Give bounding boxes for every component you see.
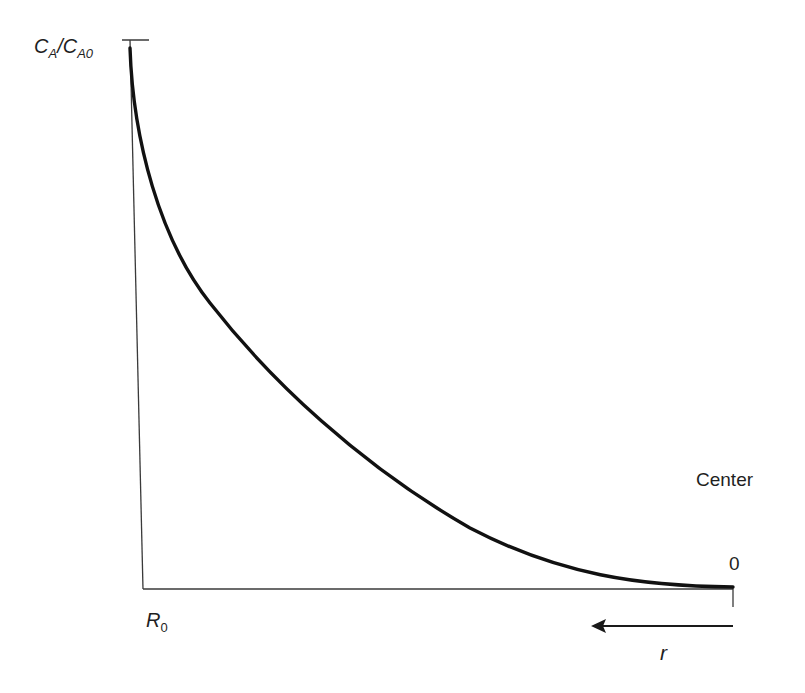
concentration-curve	[130, 48, 733, 587]
center-label: Center	[696, 470, 753, 489]
chart-canvas	[0, 0, 805, 693]
zero-label: 0	[729, 554, 740, 573]
y-label-sub-a: A	[48, 46, 57, 61]
r0-label: R0	[146, 610, 168, 634]
y-axis-label: CA/CA0	[34, 36, 93, 60]
y-label-c: C	[34, 35, 48, 57]
r-label: r	[660, 642, 667, 663]
r0-sub: 0	[160, 620, 167, 635]
y-label-c0: C	[63, 35, 77, 57]
r0-main: R	[146, 609, 160, 631]
y-label-sub-a0: A0	[77, 46, 93, 61]
